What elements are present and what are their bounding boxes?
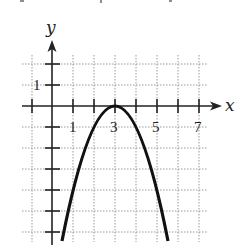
y-axis-label: y — [45, 17, 56, 37]
parabola-graph: y x 1 1 3 5 7 — [0, 0, 247, 247]
x-tick-label-7: 7 — [194, 119, 202, 135]
x-tick-label-1: 1 — [69, 119, 77, 135]
y-tick-label-1: 1 — [33, 77, 41, 93]
x-tick-label-5: 5 — [152, 119, 160, 135]
x-axis-label: x — [225, 95, 235, 115]
cropped-heading-fragments — [20, 0, 172, 3]
x-tick-label-3: 3 — [110, 119, 118, 135]
y-axis — [45, 46, 60, 245]
